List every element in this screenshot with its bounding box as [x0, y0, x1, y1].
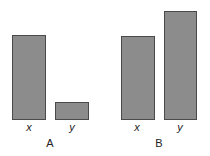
category-label-a-x: x	[19, 121, 39, 133]
category-label-b-x: x	[127, 121, 147, 133]
bar-a-y	[55, 102, 89, 120]
category-label-a-y: y	[62, 121, 82, 133]
group-label-b: B	[149, 137, 169, 149]
group-label-a: A	[40, 137, 60, 149]
bar-a-x	[12, 35, 46, 120]
category-label-b-y: y	[170, 121, 190, 133]
bar-b-x	[121, 36, 155, 120]
bar-b-y	[164, 11, 197, 120]
